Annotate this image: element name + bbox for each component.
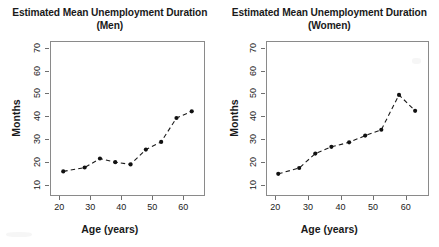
data-point-men-5 bbox=[144, 147, 148, 151]
x-tick-women-20 bbox=[275, 196, 276, 200]
x-axis-title-men: Age (years) bbox=[0, 223, 220, 235]
scan-artifact-1 bbox=[412, 58, 421, 64]
y-tick-women-70 bbox=[261, 48, 265, 49]
y-tick-label-women-50: 50 bbox=[248, 88, 258, 98]
x-tick-label-men-50: 50 bbox=[147, 202, 157, 212]
x-tick-men-40 bbox=[121, 196, 122, 200]
y-tick-label-men-50: 50 bbox=[32, 88, 42, 98]
x-tick-women-60 bbox=[406, 196, 407, 200]
chart-title-main-women: Estimated Mean Unemployment Duration bbox=[232, 7, 427, 18]
x-tick-women-30 bbox=[308, 196, 309, 200]
data-point-men-4 bbox=[128, 162, 132, 166]
chart-panel-women: Estimated Mean Unemployment Duration (Wo… bbox=[220, 0, 439, 247]
y-tick-men-50 bbox=[45, 93, 49, 94]
x-tick-label-men-40: 40 bbox=[116, 202, 126, 212]
y-tick-women-40 bbox=[261, 116, 265, 117]
x-tick-label-men-60: 60 bbox=[178, 202, 188, 212]
y-tick-label-men-40: 40 bbox=[32, 111, 42, 121]
y-tick-women-60 bbox=[261, 71, 265, 72]
x-tick-label-men-20: 20 bbox=[54, 202, 64, 212]
x-tick-label-men-30: 30 bbox=[85, 202, 95, 212]
y-tick-men-10 bbox=[45, 185, 49, 186]
data-points-men bbox=[61, 109, 194, 173]
chart-title-main-men: Estimated Mean Unemployment Duration bbox=[12, 7, 207, 18]
data-points-women bbox=[276, 93, 417, 176]
x-tick-men-30 bbox=[90, 196, 91, 200]
series-svg-women bbox=[267, 42, 428, 195]
y-tick-men-70 bbox=[45, 48, 49, 49]
data-point-men-7 bbox=[174, 116, 178, 120]
x-tick-label-women-50: 50 bbox=[368, 202, 378, 212]
y-tick-men-40 bbox=[45, 116, 49, 117]
series-svg-men bbox=[51, 42, 204, 195]
data-point-men-8 bbox=[190, 109, 194, 113]
y-tick-label-women-10: 10 bbox=[248, 180, 258, 190]
scan-artifact-2 bbox=[6, 232, 32, 237]
y-tick-men-30 bbox=[45, 139, 49, 140]
y-tick-women-20 bbox=[261, 162, 265, 163]
data-point-women-8 bbox=[413, 109, 417, 113]
y-axis-title-women: Months bbox=[228, 99, 240, 136]
series-layer-women bbox=[267, 42, 428, 195]
data-point-women-2 bbox=[313, 152, 317, 156]
data-point-men-2 bbox=[98, 156, 102, 160]
y-tick-label-men-20: 20 bbox=[32, 157, 42, 167]
data-point-women-7 bbox=[396, 93, 400, 97]
data-point-women-5 bbox=[363, 134, 367, 138]
x-tick-men-50 bbox=[152, 196, 153, 200]
plot-area-men bbox=[50, 41, 205, 196]
data-point-women-1 bbox=[297, 166, 301, 170]
y-tick-label-men-30: 30 bbox=[32, 134, 42, 144]
y-tick-men-20 bbox=[45, 162, 49, 163]
data-line-men bbox=[63, 111, 192, 171]
data-line-women bbox=[278, 95, 415, 174]
x-tick-men-60 bbox=[183, 196, 184, 200]
y-tick-label-women-20: 20 bbox=[248, 157, 258, 167]
data-point-men-1 bbox=[83, 165, 87, 169]
chart-subtitle-men: (Men) bbox=[0, 19, 220, 32]
x-tick-label-women-30: 30 bbox=[303, 202, 313, 212]
y-tick-men-60 bbox=[45, 71, 49, 72]
chart-subtitle-women: (Women) bbox=[220, 19, 439, 32]
chart-title-men: Estimated Mean Unemployment Duration (Me… bbox=[0, 6, 220, 32]
y-tick-label-women-40: 40 bbox=[248, 111, 258, 121]
x-tick-women-40 bbox=[341, 196, 342, 200]
data-point-women-3 bbox=[329, 145, 333, 149]
y-tick-women-10 bbox=[261, 185, 265, 186]
x-tick-label-women-40: 40 bbox=[335, 202, 345, 212]
data-point-men-0 bbox=[61, 169, 65, 173]
y-tick-label-women-30: 30 bbox=[248, 134, 258, 144]
y-tick-women-50 bbox=[261, 93, 265, 94]
y-axis-title-men: Months bbox=[10, 99, 22, 136]
y-tick-label-men-10: 10 bbox=[32, 180, 42, 190]
y-tick-label-women-60: 60 bbox=[248, 66, 258, 76]
plot-area-women bbox=[266, 41, 429, 196]
y-tick-women-30 bbox=[261, 139, 265, 140]
x-tick-label-women-60: 60 bbox=[401, 202, 411, 212]
x-tick-men-20 bbox=[59, 196, 60, 200]
series-layer-men bbox=[51, 42, 204, 195]
figure-container: Estimated Mean Unemployment Duration (Me… bbox=[0, 0, 439, 247]
data-point-men-3 bbox=[113, 160, 117, 164]
data-point-women-0 bbox=[276, 172, 280, 176]
x-tick-women-50 bbox=[373, 196, 374, 200]
data-point-men-6 bbox=[159, 140, 163, 144]
y-tick-label-men-70: 70 bbox=[32, 43, 42, 53]
x-tick-label-women-20: 20 bbox=[270, 202, 280, 212]
y-tick-label-men-60: 60 bbox=[32, 66, 42, 76]
x-axis-title-women: Age (years) bbox=[220, 223, 439, 235]
data-point-women-4 bbox=[347, 140, 351, 144]
data-point-women-6 bbox=[379, 128, 383, 132]
y-tick-label-women-70: 70 bbox=[248, 43, 258, 53]
chart-title-women: Estimated Mean Unemployment Duration (Wo… bbox=[220, 6, 439, 32]
chart-panel-men: Estimated Mean Unemployment Duration (Me… bbox=[0, 0, 220, 247]
